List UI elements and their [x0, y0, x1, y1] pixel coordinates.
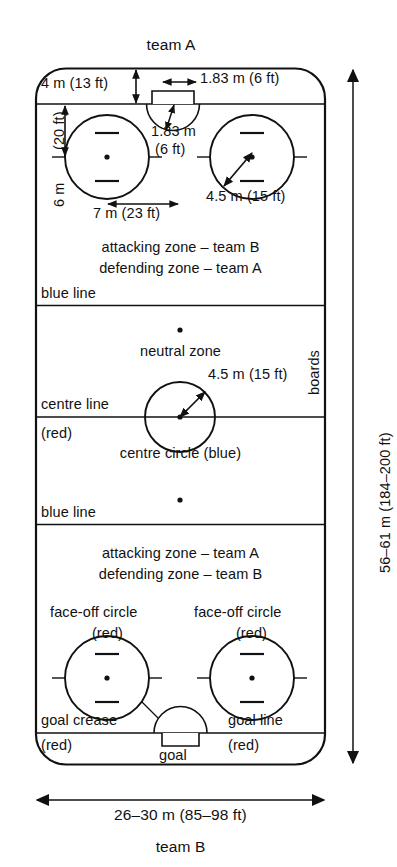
centre-circle-label: centre circle (blue)	[36, 446, 325, 462]
goal-line-label: goal line	[228, 713, 283, 729]
faceoff-circle-right-colour-label: (red)	[194, 626, 309, 642]
faceoff-radius-label: 4.5 m (15 ft)	[206, 189, 285, 205]
faceoff-to-goalline-ft-label: (20 ft)	[52, 111, 68, 150]
goal-width-label: 1.83 m (6 ft)	[200, 71, 279, 87]
neutral-zone-dot-top	[177, 327, 182, 332]
faceoff-circle-left-label: face-off circle	[50, 605, 137, 621]
goal-label: goal	[159, 748, 187, 764]
boards-label: boards	[307, 350, 323, 395]
goal-top	[152, 91, 194, 104]
faceoff-circle-left-colour-label: (red)	[50, 626, 165, 642]
zone-top-defending-label: defending zone – team A	[36, 261, 325, 277]
zone-bottom-attacking-label: attacking zone – team A	[36, 546, 325, 562]
crease-radius-unit-label: (6 ft)	[155, 142, 185, 158]
faceoff-dot-bottom-left	[104, 675, 109, 680]
team-b-label: team B	[36, 838, 325, 855]
goal-line-distance-label: 4 m (13 ft)	[41, 76, 108, 92]
goal-crease-label: goal crease	[41, 713, 117, 729]
blue-line-bottom-label: blue line	[41, 505, 96, 521]
faceoff-circle-right-label: face-off circle	[194, 605, 281, 621]
centre-line-colour-label: (red)	[41, 426, 72, 442]
zone-top-attacking-label: attacking zone – team B	[36, 240, 325, 256]
faceoff-dot-top-left	[104, 154, 109, 159]
faceoff-to-goalline-label: 6 m	[52, 183, 68, 207]
goal-crease-colour-label: (red)	[41, 738, 72, 754]
neutral-zone-label: neutral zone	[36, 344, 325, 360]
centre-line-label: centre line	[41, 397, 109, 413]
hockey-rink-diagram: team A 4 m (13 ft) 1.83 m (6 ft) 1.83 m …	[0, 0, 397, 867]
team-a-label: team A	[0, 36, 342, 53]
rink-length-label: 56–61 m (184–200 ft)	[378, 432, 394, 573]
blue-line-top-label: blue line	[41, 286, 96, 302]
neutral-zone-dot-bottom	[177, 497, 182, 502]
faceoff-dot-bottom-right	[249, 675, 254, 680]
crease-radius-label: 1.83 m	[151, 124, 196, 140]
rink-width-label: 26–30 m (85–98 ft)	[36, 806, 325, 823]
goal-line-colour-label: (red)	[228, 738, 259, 754]
centre-circle-radius-label: 4.5 m (15 ft)	[208, 367, 287, 383]
zone-bottom-defending-label: defending zone – team B	[36, 567, 325, 583]
faceoff-spacing-label: 7 m (23 ft)	[93, 206, 160, 222]
goal-bottom	[162, 733, 199, 746]
